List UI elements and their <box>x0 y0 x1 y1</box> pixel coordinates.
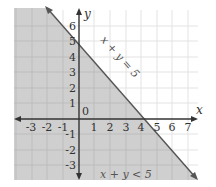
inequality-graph: y x 0 -3 -2 -1 1 2 3 4 5 6 7 6 5 4 3 2 1… <box>0 0 216 187</box>
region-inequality-label: x + y < 5 <box>100 168 152 181</box>
svg-text:-1: -1 <box>65 128 76 141</box>
svg-text:4: 4 <box>69 51 76 64</box>
svg-text:6: 6 <box>69 20 76 33</box>
svg-text:5: 5 <box>69 35 76 48</box>
svg-text:7: 7 <box>185 121 192 134</box>
svg-text:5: 5 <box>154 121 161 134</box>
svg-text:2: 2 <box>107 121 114 134</box>
origin-label: 0 <box>82 105 89 118</box>
svg-text:-2: -2 <box>65 144 76 157</box>
svg-text:-2: -2 <box>42 121 53 134</box>
y-axis-top-arrow-icon <box>76 8 82 15</box>
svg-text:3: 3 <box>123 121 130 134</box>
svg-text:4: 4 <box>138 121 145 134</box>
svg-text:-3: -3 <box>26 121 37 134</box>
svg-text:2: 2 <box>69 82 76 95</box>
svg-text:1: 1 <box>91 121 98 134</box>
svg-text:1: 1 <box>69 97 76 110</box>
svg-text:3: 3 <box>69 66 76 79</box>
svg-text:-3: -3 <box>65 159 76 172</box>
y-axis-label: y <box>83 7 91 21</box>
svg-text:6: 6 <box>169 121 176 134</box>
x-axis-label: x <box>196 103 203 117</box>
x-tick-labels: -3 -2 -1 1 2 3 4 5 6 7 <box>26 121 192 134</box>
